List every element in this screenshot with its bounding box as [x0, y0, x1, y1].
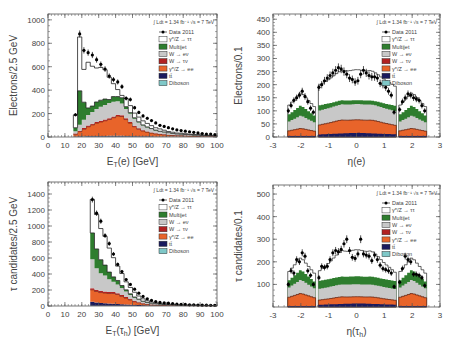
data-point: [376, 258, 379, 261]
x-tick-label: 50: [128, 310, 137, 319]
chart-eta-electron: -3-2-10123050100150200250300350400450η(e…: [225, 0, 449, 175]
legend-label: Diboson: [169, 80, 189, 86]
data-point: [303, 95, 306, 98]
data-point: [384, 86, 387, 89]
data-point: [295, 258, 298, 261]
legend-data-marker: [162, 199, 165, 202]
legend-label: γ*/Z → ττ: [392, 207, 416, 213]
legend-swatch: [382, 44, 390, 49]
data-point: [326, 77, 329, 80]
y-tick-label: 100: [257, 280, 271, 289]
x-tick-label: 70: [162, 141, 171, 150]
data-point: [141, 114, 144, 117]
chart-eta-tau: -3-2-10123100200300400500η(τh)τ candidat…: [225, 175, 449, 349]
data-point: [323, 266, 326, 269]
data-point: [103, 67, 106, 70]
data-point: [95, 58, 98, 61]
data-point: [292, 99, 295, 102]
data-point: [74, 113, 77, 116]
data-point: [184, 130, 187, 133]
data-point: [95, 212, 98, 215]
x-tick-label: 50: [128, 141, 137, 150]
legend-label: W → τν: [169, 58, 188, 64]
data-point: [418, 274, 421, 277]
y-tick-label: 1000: [27, 222, 45, 231]
chart-svg: -3-2-10123100200300400500η(τh)τ candidat…: [225, 175, 449, 349]
data-point: [320, 83, 323, 86]
data-point: [331, 71, 334, 74]
data-point: [390, 272, 393, 275]
data-point: [340, 248, 343, 251]
data-point: [108, 74, 111, 77]
data-point: [340, 67, 343, 70]
data-point: [351, 256, 354, 259]
y-tick-label: 150: [257, 94, 271, 103]
data-point: [345, 73, 348, 76]
data-point: [87, 51, 90, 54]
data-point: [406, 92, 409, 95]
data-point: [163, 301, 166, 304]
data-point: [287, 283, 290, 286]
legend-label: tt̄: [169, 73, 173, 79]
data-point: [354, 80, 357, 83]
data-point: [373, 75, 376, 78]
legend-swatch: [159, 73, 167, 78]
data-point: [289, 269, 292, 272]
data-point: [141, 295, 144, 298]
data-point: [370, 259, 373, 262]
luminosity-label: ∫ Ldt = 1.34 fb⁻¹ √s = 7 TeV: [376, 190, 438, 196]
y-tick-label: 250: [257, 68, 271, 77]
data-point: [133, 288, 136, 291]
data-point: [420, 104, 423, 107]
data-point: [133, 106, 136, 109]
data-point: [91, 53, 94, 56]
legend-swatch: [382, 222, 390, 227]
x-tick-label: 90: [196, 141, 205, 150]
data-point: [334, 249, 337, 252]
data-point: [328, 74, 331, 77]
data-point: [91, 198, 94, 201]
legend-label: W → eν: [169, 219, 189, 225]
legend-swatch: [382, 244, 390, 249]
x-tick-label: 80: [179, 141, 188, 150]
legend-swatch: [382, 59, 390, 64]
legend-label: tt̄: [169, 241, 173, 247]
data-point: [373, 253, 376, 256]
data-point: [201, 132, 204, 135]
data-point: [112, 252, 115, 255]
x-tick-label: 60: [145, 310, 154, 319]
data-point: [116, 80, 119, 83]
data-point: [306, 269, 309, 272]
data-point: [120, 270, 123, 273]
data-point: [209, 304, 212, 307]
data-point: [367, 255, 370, 258]
data-point: [196, 131, 199, 134]
data-point: [298, 260, 301, 263]
data-point: [120, 85, 123, 88]
data-point: [158, 124, 161, 127]
data-point: [125, 97, 128, 100]
legend-label: Multijet: [169, 212, 187, 218]
luminosity-label: ∫ Ldt = 1.34 fb⁻¹ √s = 7 TeV: [153, 19, 215, 25]
legend-swatch: [382, 208, 390, 213]
y-tick-label: 300: [257, 54, 271, 63]
y-tick-label: 0: [41, 302, 46, 311]
data-point: [409, 94, 412, 97]
legend-label: γ*/Z → ee: [392, 237, 416, 243]
x-tick-label: 0: [46, 141, 51, 150]
legend-swatch: [159, 219, 167, 224]
legend-swatch: [159, 51, 167, 56]
data-point: [420, 276, 423, 279]
chart-svg: -3-2-10123050100150200250300350400450η(e…: [225, 0, 449, 175]
legend-label: tt̄: [392, 73, 396, 79]
data-point: [150, 299, 153, 302]
data-point: [415, 97, 418, 100]
legend-label: Diboson: [392, 80, 412, 86]
x-tick-label: 0: [354, 141, 359, 150]
x-tick-label: 90: [196, 310, 205, 319]
legend-data-marker: [162, 31, 165, 34]
legend-label: W → τν: [392, 58, 411, 64]
data-point: [406, 258, 409, 261]
data-point: [345, 238, 348, 241]
y-tick-label: 300: [257, 235, 271, 244]
